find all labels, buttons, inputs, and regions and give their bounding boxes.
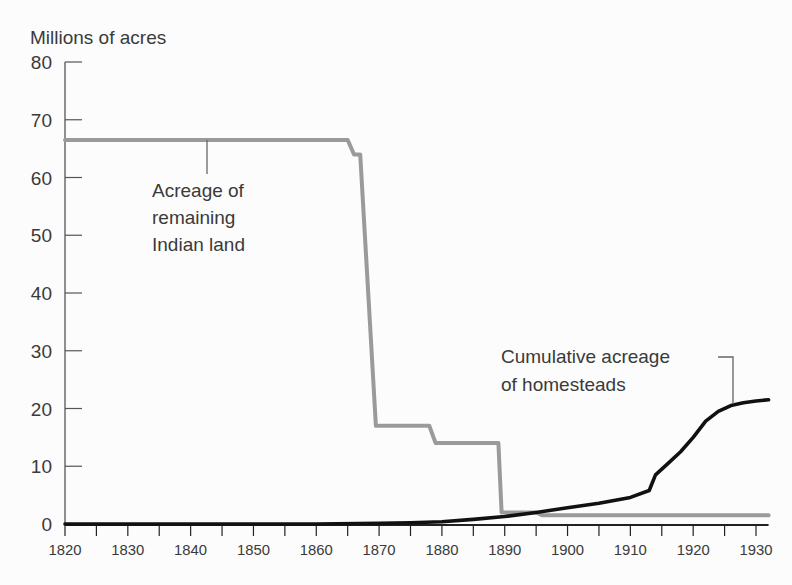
- indian-land-label: Acreage of: [152, 180, 245, 201]
- x-tick-label: 1930: [740, 542, 773, 558]
- x-tick-label: 1840: [174, 542, 207, 558]
- x-tick-label: 1830: [111, 542, 144, 558]
- indian-land-label: Indian land: [152, 234, 245, 255]
- x-tick-label: 1870: [363, 542, 396, 558]
- x-tick-label: 1920: [677, 542, 710, 558]
- y-tick-label: 70: [31, 110, 52, 131]
- homesteads-label: of homesteads: [501, 374, 626, 395]
- y-axis-title: Millions of acres: [30, 27, 166, 48]
- y-tick-label: 20: [31, 399, 52, 420]
- x-tick-label: 1820: [49, 542, 82, 558]
- y-tick-label: 60: [31, 168, 52, 189]
- homesteads-label: Cumulative acreage: [501, 346, 670, 367]
- y-tick-label: 0: [41, 514, 52, 535]
- x-tick-label: 1900: [551, 542, 584, 558]
- y-tick-label: 30: [31, 341, 52, 362]
- x-tick-label: 1880: [425, 542, 458, 558]
- x-tick-label: 1890: [488, 542, 521, 558]
- y-tick-label: 80: [31, 52, 52, 73]
- y-tick-label: 10: [31, 456, 52, 477]
- x-tick-label: 1860: [300, 542, 333, 558]
- series-annotations: Acreage ofremainingIndian landCumulative…: [152, 140, 733, 404]
- homesteads-line: [65, 400, 769, 524]
- y-tick-label: 40: [31, 283, 52, 304]
- line-chart: Millions of acres 0102030405060708018201…: [0, 0, 792, 585]
- y-tick-label: 50: [31, 225, 52, 246]
- axes: 0102030405060708018201830184018501860187…: [31, 52, 773, 558]
- x-tick-label: 1910: [614, 542, 647, 558]
- x-tick-label: 1850: [237, 542, 270, 558]
- indian-land-label: remaining: [152, 207, 235, 228]
